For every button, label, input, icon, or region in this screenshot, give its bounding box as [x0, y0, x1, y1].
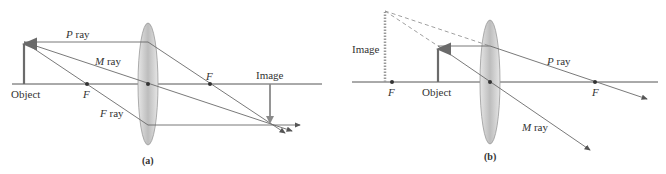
p-ray-label: P ray: [65, 28, 90, 40]
f-ray-label: F ray: [99, 107, 124, 119]
p-ray-label: P ray: [546, 55, 571, 67]
panel-a-caption: (a): [142, 155, 154, 167]
object-label: Object: [422, 86, 451, 98]
panel-b: Image F Object P ray F M ray (b): [352, 11, 658, 163]
object-label: Object: [11, 88, 40, 100]
lens-center: [146, 82, 150, 86]
focal-point-right: [208, 82, 212, 86]
ray-diagram: P ray M ray F ray F F Object Image (a) I…: [0, 0, 666, 174]
focal-label-left: F: [387, 86, 395, 98]
p-ray: [438, 46, 647, 99]
focal-point-right: [593, 80, 597, 84]
panel-a: P ray M ray F ray F F Object Image (a): [11, 23, 322, 167]
m-ray: [24, 42, 292, 131]
m-ray-label: M ray: [521, 121, 548, 133]
m-ray-extension: [385, 11, 438, 46]
p-ray-extension: [385, 11, 490, 46]
lens-center: [488, 80, 492, 84]
panel-b-caption: (b): [484, 151, 496, 163]
image-label: Image: [352, 43, 380, 55]
focal-label-right: F: [591, 86, 599, 98]
focal-label-left: F: [82, 88, 90, 100]
image-label: Image: [256, 69, 284, 81]
m-ray-label: M ray: [94, 55, 121, 67]
focal-point-left: [390, 80, 394, 84]
focal-point-left: [85, 82, 89, 86]
focal-label-right: F: [205, 70, 213, 82]
